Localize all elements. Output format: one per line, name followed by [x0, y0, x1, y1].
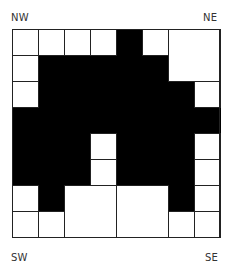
black-cell [168, 185, 195, 212]
white-cell [194, 211, 221, 238]
white-cell [64, 29, 91, 56]
black-cell [194, 107, 221, 134]
corner-label-ne: NE [203, 12, 217, 23]
white-cell [12, 81, 39, 108]
corner-label-nw: NW [11, 12, 29, 23]
black-cell [38, 159, 65, 186]
white-cell [12, 185, 39, 212]
black-cell [168, 133, 195, 160]
white-cell [90, 159, 117, 186]
white-cell [194, 159, 221, 186]
black-cell [90, 55, 117, 82]
white-cell [90, 29, 117, 56]
white-cell [12, 211, 39, 238]
black-cell [142, 133, 169, 160]
black-cell [38, 81, 65, 108]
black-cell [64, 107, 91, 134]
white-cell [116, 185, 169, 238]
black-cell [38, 55, 65, 82]
white-cell [64, 185, 117, 238]
black-cell [142, 159, 169, 186]
black-cell [38, 133, 65, 160]
black-cell [116, 159, 143, 186]
black-cell [38, 185, 65, 212]
black-cell [168, 107, 195, 134]
white-cell [12, 55, 39, 82]
corner-label-se: SE [205, 252, 218, 263]
white-cell [142, 29, 169, 56]
black-cell [64, 159, 91, 186]
black-cell [168, 81, 195, 108]
black-cell [116, 55, 143, 82]
black-cell [116, 133, 143, 160]
black-cell [64, 55, 91, 82]
black-cell [90, 107, 117, 134]
white-cell [194, 81, 221, 108]
white-cell [168, 211, 195, 238]
black-cell [12, 133, 39, 160]
black-cell [142, 107, 169, 134]
white-cell [12, 29, 39, 56]
black-cell [142, 55, 169, 82]
black-cell [142, 81, 169, 108]
quadtree-grid [12, 29, 220, 238]
white-cell [194, 185, 221, 212]
black-cell [64, 133, 91, 160]
white-cell [194, 133, 221, 160]
black-cell [38, 107, 65, 134]
black-cell [116, 29, 143, 56]
black-cell [90, 81, 117, 108]
black-cell [12, 159, 39, 186]
white-cell [168, 29, 221, 82]
white-cell [38, 29, 65, 56]
black-cell [116, 81, 143, 108]
black-cell [12, 107, 39, 134]
white-cell [38, 211, 65, 238]
black-cell [64, 81, 91, 108]
black-cell [116, 107, 143, 134]
corner-label-sw: SW [11, 252, 28, 263]
black-cell [168, 159, 195, 186]
white-cell [90, 133, 117, 160]
